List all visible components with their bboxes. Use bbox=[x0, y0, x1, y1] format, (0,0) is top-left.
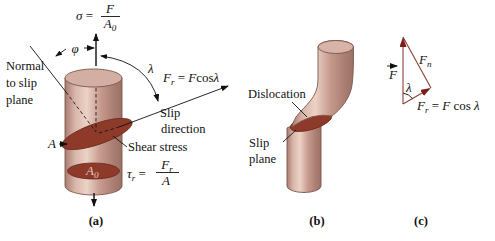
fr-c-cos: cos bbox=[450, 98, 474, 113]
sigma-den-base: A bbox=[103, 16, 112, 31]
f-vector-label: F bbox=[388, 67, 398, 82]
panel-a: φ λ σ = F A0 Normal to slip plane Fr = F… bbox=[6, 1, 228, 228]
sigma-formula-lhs: σ = bbox=[76, 8, 93, 23]
lambda-label-c: λ bbox=[405, 80, 412, 95]
normal-label-line1: Normal bbox=[6, 59, 45, 73]
caption-a: (a) bbox=[89, 214, 104, 228]
lambda-label-a: λ bbox=[147, 61, 154, 76]
tau-formula-lhs: τr = bbox=[127, 166, 146, 183]
dislocation-label: Dislocation bbox=[248, 87, 306, 101]
fr-a-lam: λ bbox=[213, 70, 220, 85]
panel-b: Dislocation Slip plane (b) bbox=[248, 41, 354, 229]
caption-b: (b) bbox=[309, 214, 324, 228]
fr-a-eq: = bbox=[174, 70, 188, 85]
cylinder-a-top-face bbox=[65, 69, 122, 87]
slip-direction-label-line1: Slip bbox=[160, 106, 180, 120]
fn-sub: n bbox=[427, 59, 432, 69]
cylinder-b-upper bbox=[292, 41, 354, 128]
slip-plane-label-line2: plane bbox=[249, 152, 277, 166]
fr-formula-a: Fr = Fcosλ bbox=[162, 70, 220, 87]
cylinder-b-top-face bbox=[318, 41, 354, 54]
slip-plane-label-line1: Slip bbox=[249, 136, 269, 150]
sigma-numerator: F bbox=[105, 1, 115, 16]
tau-equals: = bbox=[135, 166, 146, 181]
shear-stress-label: Shear stress bbox=[128, 140, 187, 154]
area-a0-base: A bbox=[85, 163, 94, 178]
sigma-denominator: A0 bbox=[103, 16, 117, 33]
fr-c-eq: = bbox=[428, 98, 442, 113]
tau-denominator: A bbox=[161, 173, 170, 188]
caption-c: (c) bbox=[414, 214, 428, 228]
tau-numerator: Fr bbox=[160, 157, 173, 174]
fr-formula-c: Fr = F cos λ bbox=[416, 98, 480, 115]
normal-label-line2: to slip bbox=[6, 76, 37, 90]
normal-label-line3: plane bbox=[6, 93, 34, 107]
phi-label: φ bbox=[71, 41, 78, 56]
figure: φ λ σ = F A0 Normal to slip plane Fr = F… bbox=[0, 0, 495, 241]
fn-label: Fn bbox=[418, 52, 432, 69]
fr-c-lam: λ bbox=[473, 98, 480, 113]
area-a-label: A bbox=[47, 136, 56, 151]
sigma-equals: = bbox=[82, 8, 93, 23]
phi-arc-left-arrow bbox=[56, 49, 66, 56]
figure-canvas: φ λ σ = F A0 Normal to slip plane Fr = F… bbox=[0, 0, 495, 241]
area-a0-sub: 0 bbox=[94, 170, 99, 180]
fr-a-cos: cos bbox=[196, 70, 213, 85]
slip-direction-label-line2: direction bbox=[161, 122, 206, 136]
sigma-den-sub: 0 bbox=[112, 23, 117, 33]
panel-c: λ F Fn Fr = F cos λ (c) bbox=[387, 37, 480, 228]
